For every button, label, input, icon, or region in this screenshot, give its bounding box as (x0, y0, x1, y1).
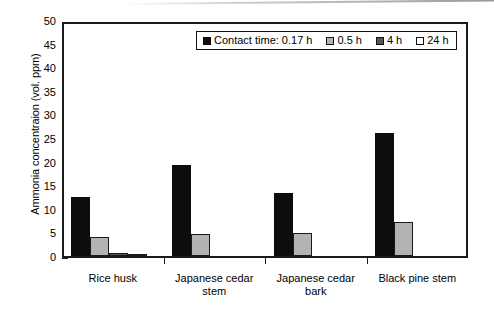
bar (71, 197, 90, 256)
y-tick-label: 30 (24, 110, 56, 121)
bar (172, 165, 191, 256)
legend-entry: Contact time: 0.17 h (203, 35, 312, 46)
y-tick-label: 25 (24, 134, 56, 145)
x-category-label: Japanese cedarstem (159, 272, 269, 298)
y-tick-label: 15 (24, 181, 56, 192)
legend-entry: 0.5 h (326, 35, 361, 46)
x-tick-mark (265, 258, 266, 264)
bar (191, 234, 210, 256)
bar-chart-figure: Ammonia concentraion (vol. ppm) 05101520… (0, 0, 494, 319)
y-tick-label: 45 (24, 40, 56, 51)
legend-label: Contact time: 0.17 h (214, 35, 312, 46)
bar (109, 253, 128, 256)
x-category-label: Black pine stem (362, 272, 472, 285)
y-tick-label: 0 (24, 252, 56, 263)
legend-label: 0.5 h (337, 35, 361, 46)
y-tick-label: 20 (24, 158, 56, 169)
x-category-label-line: Japanese cedar (261, 272, 371, 285)
x-category-label: Japanese cedarbark (261, 272, 371, 298)
legend-swatch-icon (203, 37, 211, 45)
bar (128, 254, 147, 256)
x-category-label-line: bark (261, 285, 371, 298)
bar (293, 233, 312, 256)
legend-swatch-icon (416, 37, 424, 45)
x-category-label-line: Black pine stem (362, 272, 472, 285)
x-tick-mark (164, 258, 165, 264)
x-tick-mark (367, 258, 368, 264)
x-category-label-line: Japanese cedar (159, 272, 269, 285)
x-category-label-line: stem (159, 285, 269, 298)
y-tick-label: 10 (24, 205, 56, 216)
bar (394, 222, 413, 256)
y-tick-label: 5 (24, 228, 56, 239)
y-tick-mark (62, 258, 68, 259)
y-tick-label: 40 (24, 63, 56, 74)
legend-label: 4 h (387, 35, 402, 46)
bar (274, 193, 293, 256)
plot-area (62, 22, 468, 258)
bar (90, 237, 109, 256)
y-tick-label: 35 (24, 87, 56, 98)
x-category-label-line: Rice husk (58, 272, 168, 285)
scan-artifact-line (120, 0, 494, 5)
legend-entry: 24 h (416, 35, 448, 46)
bar (375, 133, 394, 256)
legend-swatch-icon (326, 37, 334, 45)
chart-legend: Contact time: 0.17 h0.5 h4 h24 h (196, 31, 457, 50)
legend-label: 24 h (427, 35, 448, 46)
y-tick-label: 50 (24, 16, 56, 27)
x-category-label: Rice husk (58, 272, 168, 285)
legend-swatch-icon (376, 37, 384, 45)
legend-entry: 4 h (376, 35, 402, 46)
